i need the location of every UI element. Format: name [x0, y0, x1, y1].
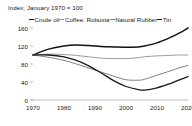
axis-lines	[30, 28, 188, 100]
x-tick-label: 1990	[83, 104, 107, 111]
y-tick-label: 0	[10, 97, 28, 104]
series-line-coffee-robusta	[33, 54, 188, 59]
series-lines	[33, 28, 188, 90]
y-tick-label: 120	[10, 43, 28, 50]
x-tick-label: 2020	[176, 104, 192, 111]
y-tick-label: 40	[10, 79, 28, 86]
x-tick-label: 1980	[52, 104, 76, 111]
x-tick-label: 1970	[21, 104, 45, 111]
x-tick-label: 2010	[145, 104, 169, 111]
chart-container: Index, January 1970 = 100 Crude oilCoffe…	[0, 0, 192, 126]
y-tick-label: 80	[10, 61, 28, 68]
y-tick-label: 160	[10, 25, 28, 32]
series-line-crude-oil	[33, 28, 188, 55]
x-tick-label: 2000	[114, 104, 138, 111]
